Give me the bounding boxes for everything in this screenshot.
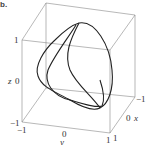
bounding-box — [22, 3, 135, 133]
x-tick-near: 1 — [113, 133, 118, 143]
z-tick-top: 1 — [14, 35, 19, 45]
x-axis-label: x — [133, 113, 138, 123]
3d-curve-plot: b. 1 0 −1 z −1 0 1 y 1 0 −1 x — [0, 0, 147, 145]
x-tick-far: −1 — [136, 94, 146, 104]
x-tick-mid: 0 — [126, 113, 131, 123]
space-curve — [37, 23, 112, 110]
panel-label: b. — [0, 0, 7, 9]
z-axis-label: z — [7, 76, 12, 86]
z-tick-mid: 0 — [15, 76, 20, 86]
y-axis-label: y — [59, 137, 64, 145]
y-tick-right: 1 — [106, 135, 111, 145]
y-tick-left: −1 — [17, 125, 27, 135]
